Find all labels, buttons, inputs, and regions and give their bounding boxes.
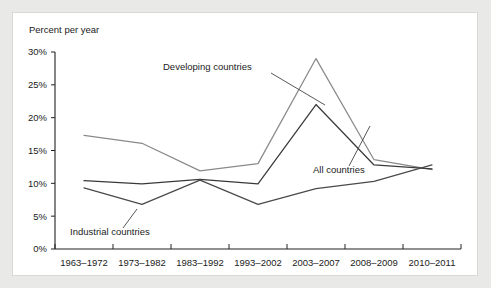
x-tick-label: 1973–1982 (118, 257, 166, 268)
chart-panel: Percent per year 0%5%10%15%20%25%30% 196… (13, 13, 477, 275)
y-axis-title: Percent per year (29, 24, 99, 35)
x-tick-label: 1983–1992 (176, 257, 224, 268)
y-tick-label: 0% (33, 243, 47, 254)
series-group (84, 59, 432, 205)
series-line-industrial-countries (84, 165, 432, 204)
figure-root: Percent per year 0%5%10%15%20%25%30% 196… (0, 0, 491, 288)
y-axis-ticks: 0%5%10%15%20%25%30% (28, 46, 55, 254)
x-axis-ticks: 1963–19721973–19821983–19921993–20022003… (55, 244, 461, 268)
annotation-label: Developing countries (163, 61, 252, 72)
x-tick-label: 2010–2011 (409, 257, 456, 268)
annotation-label: All countries (313, 164, 365, 175)
x-tick-label: 1963–1972 (60, 257, 108, 268)
x-tick-label: 2008–2009 (350, 257, 398, 268)
series-line-all-countries (84, 105, 432, 184)
y-tick-label: 25% (28, 79, 48, 90)
y-tick-label: 15% (28, 145, 48, 156)
y-tick-label: 10% (28, 178, 48, 189)
y-tick-label: 5% (33, 211, 47, 222)
x-tick-label: 1993–2002 (234, 257, 282, 268)
x-tick-label: 2003–2007 (292, 257, 340, 268)
y-tick-label: 20% (28, 112, 48, 123)
annotation-leader-line (271, 73, 325, 105)
annotation-group: Developing countriesAll countriesIndustr… (70, 61, 370, 237)
line-chart: Percent per year 0%5%10%15%20%25%30% 196… (13, 13, 477, 275)
series-line-developing-countries (84, 59, 432, 171)
y-tick-label: 30% (28, 46, 48, 57)
annotation-label: Industrial countries (70, 226, 150, 237)
